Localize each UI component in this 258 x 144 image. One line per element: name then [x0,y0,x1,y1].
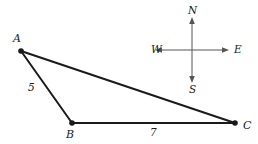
side-length-label-BC: 7 [150,127,157,138]
vertex-point-C [232,120,238,126]
compass-rose [155,17,229,83]
vertex-label-A: A [13,33,21,44]
compass-south-arrowhead [189,76,195,83]
geometry-figure: A B C 5 7 N S E W [0,0,258,144]
diagram-canvas [0,0,258,144]
compass-label-west: W [151,44,162,55]
edge-AC [21,51,235,123]
compass-north-arrowhead [189,17,195,24]
vertex-point-B [69,120,75,126]
compass-label-north: N [188,5,197,16]
vertex-point-A [18,48,24,54]
compass-label-south: S [189,84,196,95]
vertex-label-C: C [243,120,251,131]
compass-label-east: E [234,44,242,55]
side-length-label-AB: 5 [28,82,35,93]
compass-east-arrowhead [222,47,229,53]
vertex-label-B: B [66,129,74,140]
